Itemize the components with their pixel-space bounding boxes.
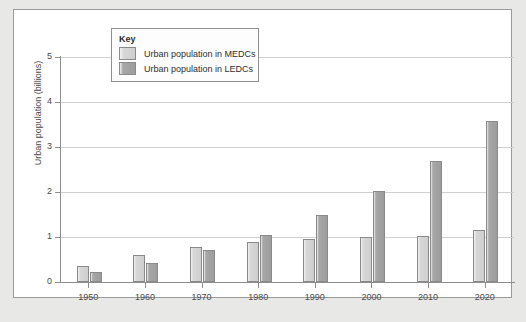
bar-medc-1950	[77, 266, 89, 282]
bar-group-1970	[190, 57, 215, 282]
x-tick-label-2020: 2020	[455, 292, 515, 302]
bar-ledc-1980	[260, 235, 272, 282]
bar-group-1980	[247, 57, 272, 282]
chart-figure: Urban population (billions) 012345 19501…	[13, 9, 512, 298]
legend-label-medc: Urban population in MEDCs	[144, 49, 256, 59]
y-tick-mark	[55, 282, 61, 283]
y-tick-mark	[55, 102, 61, 103]
x-tick-mark-2010	[428, 283, 429, 288]
bar-ledc-1950	[90, 272, 102, 282]
y-tick-label: 2	[22, 186, 52, 196]
legend-title: Key	[119, 34, 251, 44]
x-tick-label-1980: 1980	[228, 292, 288, 302]
bar-group-2020	[473, 57, 498, 282]
x-tick-label-1960: 1960	[115, 292, 175, 302]
x-tick-label-1970: 1970	[172, 292, 232, 302]
chart-legend: Key Urban population in MEDCs Urban popu…	[111, 28, 259, 82]
bar-ledc-2020	[486, 121, 498, 282]
y-tick-mark	[55, 57, 61, 58]
bar-medc-1970	[190, 247, 202, 282]
x-tick-mark-1960	[145, 283, 146, 288]
y-tick-mark	[55, 147, 61, 148]
gridline-3	[61, 147, 514, 148]
bar-medc-1980	[247, 242, 259, 282]
bar-ledc-2010	[430, 161, 442, 282]
y-tick-label: 3	[22, 141, 52, 151]
gridline-1	[61, 237, 514, 238]
y-tick-label: 1	[22, 231, 52, 241]
bar-group-1960	[133, 57, 158, 282]
bar-medc-1960	[133, 255, 145, 282]
bar-ledc-1970	[203, 250, 215, 282]
x-tick-label-1990: 1990	[285, 292, 345, 302]
x-tick-label-2010: 2010	[398, 292, 458, 302]
x-tick-label-2000: 2000	[341, 292, 401, 302]
bar-ledc-2000	[373, 191, 385, 282]
y-tick-label: 0	[22, 276, 52, 286]
y-tick-label: 4	[22, 96, 52, 106]
plot-area	[61, 57, 514, 282]
legend-swatch-ledc-icon	[119, 62, 136, 75]
x-tick-mark-1970	[202, 283, 203, 288]
legend-label-ledc: Urban population in LEDCs	[144, 64, 253, 74]
legend-item-medc: Urban population in MEDCs	[119, 47, 251, 60]
bar-medc-1990	[303, 239, 315, 282]
y-tick-mark	[55, 192, 61, 193]
bar-medc-2010	[417, 236, 429, 282]
y-tick-mark	[55, 237, 61, 238]
bar-medc-2020	[473, 230, 485, 282]
x-tick-mark-1980	[258, 283, 259, 288]
bar-medc-2000	[360, 237, 372, 282]
y-tick-label: 5	[22, 51, 52, 61]
bar-group-2010	[417, 57, 442, 282]
bar-group-1950	[77, 57, 102, 282]
x-axis-ticks: 19501960197019801990200020102020	[60, 283, 515, 307]
bar-group-1990	[303, 57, 328, 282]
x-tick-label-1950: 1950	[58, 292, 118, 302]
bar-group-2000	[360, 57, 385, 282]
bar-ledc-1990	[316, 215, 328, 283]
x-tick-mark-2020	[485, 283, 486, 288]
x-tick-mark-2000	[371, 283, 372, 288]
x-tick-mark-1950	[88, 283, 89, 288]
x-tick-mark-1990	[315, 283, 316, 288]
legend-swatch-medc-icon	[119, 47, 136, 60]
gridline-2	[61, 192, 514, 193]
legend-item-ledc: Urban population in LEDCs	[119, 62, 251, 75]
gridline-4	[61, 102, 514, 103]
bar-ledc-1960	[146, 263, 158, 282]
